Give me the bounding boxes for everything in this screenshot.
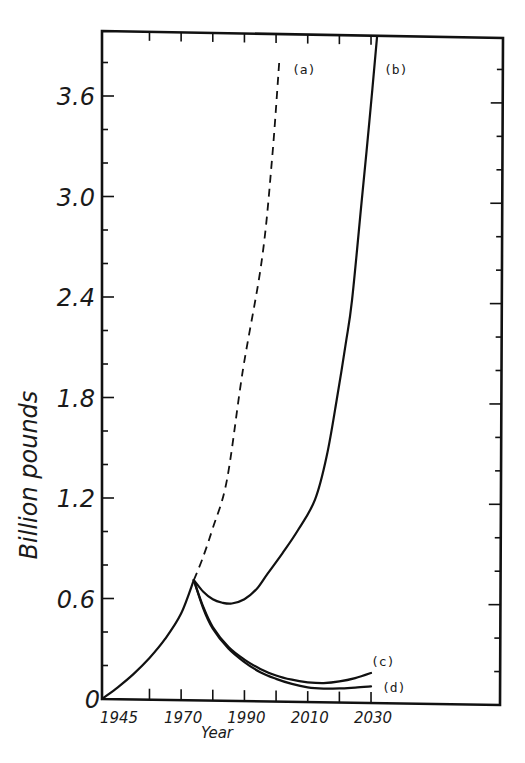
series-label-b: (b) [384, 62, 407, 77]
y-axis-title: Billion pounds [15, 391, 43, 560]
line-chart: 00.61.21.82.43.03.6 19451970199020102030… [0, 0, 525, 763]
y-tick-label: 0.6 [57, 586, 95, 614]
x-axis-title: Year [201, 724, 234, 742]
y-tick-label: 1.8 [57, 385, 95, 413]
y-tick-label: 0 [85, 686, 100, 714]
y-tick-label: 2.4 [57, 284, 95, 312]
series-a-line [194, 63, 279, 581]
x-tick-label: 1945 [100, 709, 138, 727]
series-lines [102, 37, 377, 699]
x-tick-label: 1970 [164, 709, 202, 727]
series-label-a: (a) [292, 62, 315, 77]
x-axis-tick-labels: 19451970199020102030 [100, 709, 392, 727]
y-tick-label: 3.0 [57, 184, 95, 212]
x-tick-label: 2030 [354, 709, 392, 727]
x-tick-label: 2010 [291, 709, 329, 727]
series-label-d: (d) [382, 680, 405, 695]
series-b-line [194, 37, 377, 603]
series-c-line [194, 580, 371, 683]
series-d-line [194, 580, 371, 689]
series-label-c: (c) [371, 654, 394, 669]
y-tick-label: 3.6 [57, 83, 95, 111]
x-axis-ticks [149, 32, 371, 703]
y-tick-label: 1.2 [57, 485, 95, 513]
y-axis-tick-labels: 00.61.21.82.43.03.6 [57, 83, 100, 714]
plot-frame [102, 31, 503, 705]
y-axis-ticks [102, 63, 503, 672]
series-shared-growth-line [102, 580, 194, 699]
